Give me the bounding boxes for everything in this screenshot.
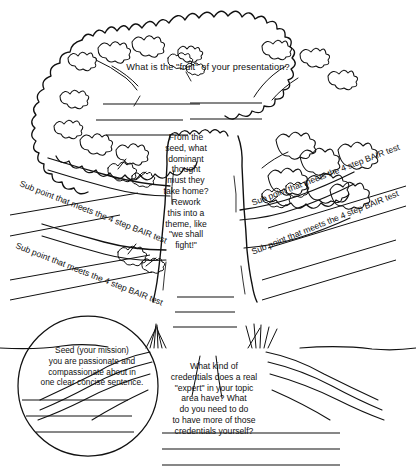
worksheet-page: What is the "fruit" of your presentation…	[0, 0, 416, 474]
tree-illustration	[0, 0, 416, 474]
